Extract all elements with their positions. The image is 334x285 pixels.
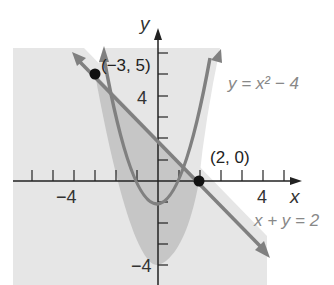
y-axis-label: y [138, 13, 151, 34]
point-neg3-5 [90, 69, 101, 80]
y-tick-label-neg4: −4 [131, 256, 152, 276]
x-tick-label-neg4: −4 [56, 187, 77, 207]
x-axis-arrow-icon [290, 177, 302, 185]
graph: y x −4 4 4 −4 (−3, 5) (2, 0) y = x² − 4 … [0, 0, 334, 285]
point-label-neg3-5: (−3, 5) [101, 56, 151, 75]
line-label: x + y = 2 [253, 211, 320, 230]
y-axis-arrow-icon [154, 28, 162, 40]
x-axis-label: x [289, 186, 301, 207]
y-tick-label-4: 4 [137, 88, 147, 108]
x-tick-label-4: 4 [257, 187, 267, 207]
point-label-2-0: (2, 0) [210, 148, 250, 167]
point-2-0 [194, 176, 205, 187]
parabola-label: y = x² − 4 [227, 74, 299, 93]
